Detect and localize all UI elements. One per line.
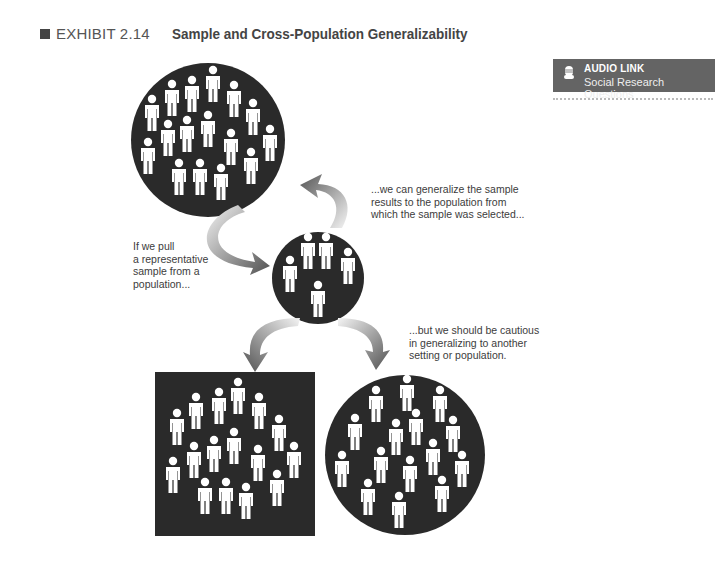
other-population-circle	[325, 375, 485, 535]
caption-generalize-back: ...we can generalize the sample results …	[371, 183, 525, 221]
caption-pull-sample: If we pull a representative sample from …	[133, 240, 208, 290]
other-setting-square	[155, 372, 315, 536]
population-circle	[131, 63, 285, 217]
arrow-to-other-setting	[243, 318, 300, 372]
arrow-to-population	[300, 174, 348, 228]
arrow-to-other-population	[338, 318, 390, 370]
caption-cautious: ...but we should be cautious in generali…	[409, 324, 539, 362]
sample-circle	[272, 232, 364, 324]
